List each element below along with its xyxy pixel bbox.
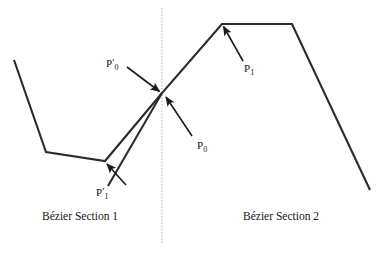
point-label-p1: P1 — [244, 63, 254, 74]
arrow-p1 — [224, 27, 244, 62]
point-label-p0: P0 — [197, 140, 207, 151]
point-label-p0-subscript: 0 — [203, 145, 207, 154]
control-polygon-section-2 — [108, 24, 370, 190]
diagram-canvas: P′0 P′1 P0 P1 Bézier Section 1 Bézier Se… — [0, 0, 387, 253]
control-polygon-section-1 — [14, 60, 162, 161]
point-label-p1-subscript: 1 — [250, 68, 254, 77]
point-label-p1-prime-subscript: 1 — [105, 192, 109, 201]
arrow-p0-prime — [127, 67, 160, 92]
caption-bezier-section-1: Bézier Section 1 — [42, 211, 118, 223]
point-label-p0-prime: P′0 — [106, 58, 119, 69]
point-label-p1-prime: P′1 — [96, 187, 109, 198]
arrow-p0 — [166, 97, 192, 136]
caption-bezier-section-2: Bézier Section 2 — [243, 211, 319, 223]
point-label-p0-prime-subscript: 0 — [115, 63, 119, 72]
